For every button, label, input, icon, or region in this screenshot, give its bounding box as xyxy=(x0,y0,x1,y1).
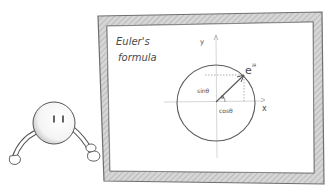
left-hand xyxy=(9,155,20,165)
sin-label: sinθ xyxy=(197,87,210,94)
character xyxy=(9,102,100,165)
title-line-2: formula xyxy=(118,52,157,63)
point-label: e xyxy=(245,64,252,77)
left-arm xyxy=(14,132,36,158)
cos-label: cosθ xyxy=(219,107,233,114)
x-axis-label: x xyxy=(262,104,267,113)
title-line-1: Euler's xyxy=(116,36,150,47)
y-axis-label: y xyxy=(200,38,204,46)
illustration: Euler's formula y x e iθ sinθ cosθ θ xyxy=(0,0,333,194)
angle-label: θ xyxy=(221,94,224,100)
right-hand xyxy=(88,151,101,161)
point-exponent: iθ xyxy=(252,63,256,68)
character-head xyxy=(33,102,75,144)
